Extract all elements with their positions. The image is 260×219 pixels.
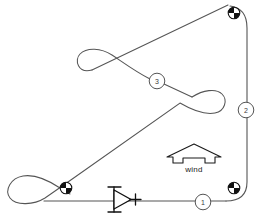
- leg-3-diagonal-upper: [77, 5, 228, 79]
- leg-marker-2-label: 2: [244, 107, 248, 114]
- sailing-course-diagram: 1 2 3 wind: [0, 0, 260, 219]
- wind-arrow-icon: [167, 144, 221, 163]
- leg-marker-1-label: 1: [201, 199, 205, 206]
- mark-top-right-icon[interactable]: [228, 7, 240, 19]
- course-marks: [60, 7, 240, 194]
- course-outline: [44, 6, 247, 201]
- wind-indicator: wind: [167, 144, 221, 174]
- committee-boat-icon[interactable]: [108, 187, 141, 212]
- mark-bottom-left-icon[interactable]: [60, 182, 72, 194]
- leg-marker-1[interactable]: 1: [195, 194, 211, 210]
- leg-marker-3[interactable]: 3: [149, 73, 165, 89]
- mark-bottom-right-icon[interactable]: [228, 182, 240, 194]
- wind-label: wind: [184, 165, 202, 174]
- leg-marker-3-label: 3: [155, 78, 159, 85]
- leg-marker-2[interactable]: 2: [238, 102, 254, 118]
- course-canvas: 1 2 3 wind: [0, 0, 260, 219]
